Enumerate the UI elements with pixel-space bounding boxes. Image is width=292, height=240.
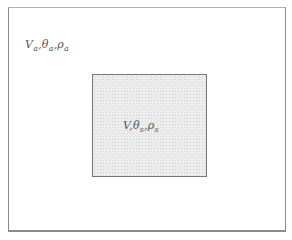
symbol-v: V (25, 38, 33, 51)
symbol-theta: θ (42, 38, 49, 51)
subscript: a (64, 44, 69, 53)
outer-region-label: Va,θa,ρa (25, 38, 69, 53)
symbol-theta: θ (133, 119, 140, 132)
inner-region-label: V,θs,ρs (123, 119, 159, 134)
subscript: s (154, 125, 158, 134)
